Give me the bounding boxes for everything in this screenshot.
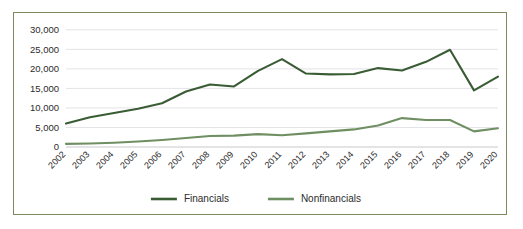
x-axis-tick-label: 2012 [286,149,307,170]
x-axis-tick-label: 2013 [310,149,331,170]
legend-label: Financials [184,193,229,204]
x-axis-tick-label: 2008 [190,149,211,170]
x-axis-tick-label: 2017 [406,149,427,170]
x-axis-tick-label: 2016 [382,149,403,170]
series-line-financials [66,50,498,124]
x-axis-tick-label: 2009 [214,149,235,170]
y-axis-tick-label: 25,000 [30,44,59,55]
legend-item-financials[interactable]: Financials [151,193,229,204]
x-axis-tick-label: 2006 [142,149,163,170]
legend-label: Nonfinancials [301,193,361,204]
y-axis-tick-label: 15,000 [30,83,59,94]
y-axis-tick-label: 30,000 [30,24,59,35]
chart-plot-area: 05,00010,00015,00020,00025,00030,0002002… [14,13,506,214]
x-axis-tick-label: 2015 [358,149,379,170]
x-axis-tick-label: 2011 [263,149,284,170]
x-axis-tick-label: 2002 [46,149,67,170]
x-axis-tick-label: 2014 [334,149,355,170]
x-axis-tick-label: 2004 [94,149,115,170]
y-axis-tick-label: 10,000 [30,102,59,113]
x-axis-tick-label: 2007 [166,149,187,170]
x-axis-tick-label: 2005 [118,149,139,170]
y-axis-tick-label: 20,000 [30,63,59,74]
x-axis-tick-label: 2003 [70,149,91,170]
x-axis-tick-label: 2020 [478,149,499,170]
series-line-nonfinancials [66,118,498,144]
x-axis-tick-label: 2010 [238,149,259,170]
x-axis-tick-label: 2019 [454,149,475,170]
line-chart: 05,00010,00015,00020,00025,00030,0002002… [14,13,508,216]
legend-item-nonfinancials[interactable]: Nonfinancials [268,193,361,204]
chart-frame: 05,00010,00015,00020,00025,00030,0002002… [13,12,507,215]
x-axis-tick-label: 2018 [430,149,451,170]
y-axis-tick-label: 5,000 [35,122,59,133]
